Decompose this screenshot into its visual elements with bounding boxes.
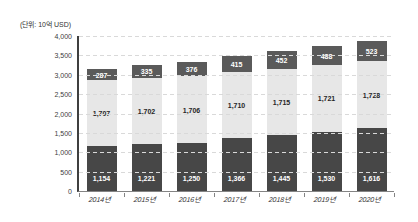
y-tick-label: 3,500: [54, 52, 72, 59]
bar-value-label: 1,530: [306, 175, 348, 182]
bar-segment-segment-top: 287: [87, 69, 117, 80]
bar-segment-segment-bottom: 1,616: [357, 128, 387, 191]
bar-segment-segment-middle: 1,710: [222, 72, 252, 138]
stacked-bar: 1,2211,702335: [132, 36, 162, 191]
y-tick-label: 1,500: [54, 129, 72, 136]
bar-value-label: 1,154: [81, 175, 123, 182]
y-tick-label: 2,500: [54, 91, 72, 98]
y-tick-label: 4,000: [54, 33, 72, 40]
bar-segment-segment-top: 452: [267, 51, 297, 69]
stacked-bar: 1,6161,728523: [357, 36, 387, 191]
bar-value-label: 335: [126, 68, 168, 75]
bars: 1,1541,7072871,2211,7023351,2501,7063761…: [79, 36, 394, 191]
plot-area: 1,1541,7072871,2211,7023351,2501,7063761…: [77, 36, 394, 192]
bar-value-label: 452: [261, 56, 303, 63]
bar-value-label: 523: [351, 48, 393, 55]
bar-column-2018년: 1,4451,715452: [259, 36, 304, 191]
y-tick-label: 2,000: [54, 110, 72, 117]
y-tick-label: 500: [60, 168, 72, 175]
bar-value-label: 287: [81, 71, 123, 78]
bar-value-label: 488: [306, 52, 348, 59]
x-axis-labels: 2014년2015년2016년2017년2018년2019년2020년: [77, 196, 392, 203]
bar-value-label: 376: [171, 66, 213, 73]
bar-column-2015년: 1,2211,702335: [124, 36, 169, 191]
y-tick-label: 1,000: [54, 149, 72, 156]
bar-segment-segment-top: 335: [132, 65, 162, 78]
bar-segment-segment-middle: 1,702: [132, 78, 162, 144]
bar-segment-segment-middle: 1,706: [177, 76, 207, 142]
bar-column-2019년: 1,5301,721488: [304, 36, 349, 191]
bar-value-label: 1,250: [171, 175, 213, 182]
y-tick-label: 0: [68, 188, 72, 195]
bar-value-label: 1,715: [261, 98, 303, 105]
x-axis-label: 2014년: [77, 196, 123, 203]
bar-segment-segment-top: 523: [357, 41, 387, 61]
x-axis-label: 2018년: [257, 196, 303, 203]
bar-segment-segment-bottom: 1,445: [267, 135, 297, 191]
x-axis-label: 2015년: [122, 196, 168, 203]
bar-segment-segment-bottom: 1,154: [87, 146, 117, 191]
bar-segment-segment-middle: 1,721: [312, 65, 342, 132]
bar-value-label: 1,221: [126, 175, 168, 182]
bar-value-label: 1,445: [261, 175, 303, 182]
stacked-bar: 1,3661,710415: [222, 36, 252, 191]
x-axis-label: 2019년: [302, 196, 348, 203]
x-tick-mark: [394, 193, 395, 197]
bar-value-label: 1,721: [306, 95, 348, 102]
bar-column-2016년: 1,2501,706376: [169, 36, 214, 191]
bar-segment-segment-middle: 1,707: [87, 80, 117, 146]
bar-segment-segment-middle: 1,728: [357, 61, 387, 128]
stacked-bar: 1,5301,721488: [312, 36, 342, 191]
bar-segment-segment-bottom: 1,530: [312, 132, 342, 191]
bar-value-label: 415: [216, 60, 258, 67]
x-axis-label: 2016년: [167, 196, 213, 203]
bar-value-label: 1,702: [126, 107, 168, 114]
bar-segment-segment-bottom: 1,250: [177, 143, 207, 191]
bar-value-label: 1,728: [351, 91, 393, 98]
stacked-bar: 1,4451,715452: [267, 36, 297, 191]
x-axis-label: 2020년: [347, 196, 393, 203]
bar-segment-segment-top: 488: [312, 46, 342, 65]
bar-segment-segment-bottom: 1,366: [222, 138, 252, 191]
stacked-bar-chart: (단위: 10억 USD) 05001,0001,5002,0002,5003,…: [0, 0, 418, 222]
stacked-bar: 1,1541,707287: [87, 36, 117, 191]
y-axis-labels: 05001,0001,5002,0002,5003,0003,5004,000: [28, 36, 72, 191]
x-axis-label: 2017년: [212, 196, 258, 203]
y-tick-label: 3,000: [54, 71, 72, 78]
stacked-bar: 1,2501,706376: [177, 36, 207, 191]
bar-column-2017년: 1,3661,710415: [214, 36, 259, 191]
bar-segment-segment-bottom: 1,221: [132, 144, 162, 191]
bar-segment-segment-top: 376: [177, 62, 207, 77]
bar-value-label: 1,707: [81, 110, 123, 117]
bar-segment-segment-top: 415: [222, 56, 252, 72]
bar-segment-segment-middle: 1,715: [267, 69, 297, 135]
bar-column-2014년: 1,1541,707287: [79, 36, 124, 191]
bar-value-label: 1,366: [216, 175, 258, 182]
unit-label: (단위: 10억 USD): [20, 19, 71, 29]
bar-column-2020년: 1,6161,728523: [349, 36, 394, 191]
bar-value-label: 1,710: [216, 101, 258, 108]
bar-value-label: 1,706: [171, 106, 213, 113]
bar-value-label: 1,616: [351, 175, 393, 182]
